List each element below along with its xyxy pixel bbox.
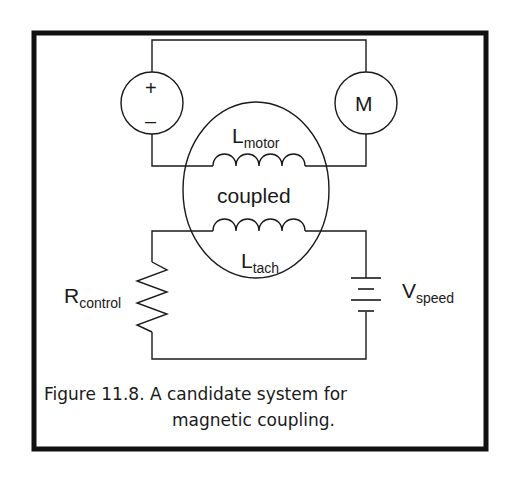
source-minus-sign: – — [145, 111, 156, 131]
inductor-tach-label: Ltach — [241, 250, 279, 275]
battery-sub: speed — [416, 290, 454, 306]
inductor-tach-sub: tach — [253, 260, 279, 276]
inductor-tach-main: L — [241, 249, 253, 272]
battery-icon — [351, 278, 381, 311]
coupling-label: coupled — [217, 185, 291, 206]
wire-inductor-to-resistor — [152, 231, 213, 262]
inductor-motor-icon — [213, 154, 305, 166]
caption-line-1: Figure 11.8. A candidate system for — [44, 386, 347, 403]
resistor-icon — [137, 262, 167, 332]
battery-label: Vspeed — [402, 280, 454, 305]
resistor-label: Rcontrol — [64, 285, 121, 310]
inductor-tach-icon — [213, 219, 305, 231]
wire-inductor-to-battery — [305, 231, 366, 278]
resistor-sub: control — [79, 295, 121, 311]
inductor-motor-main: L — [232, 124, 244, 147]
source-plus-sign: + — [145, 78, 157, 98]
inductor-motor-label: Lmotor — [232, 125, 279, 150]
wire-top — [152, 40, 366, 72]
motor-label: M — [355, 93, 373, 114]
wire-motor-to-inductor — [305, 134, 366, 166]
battery-main: V — [402, 279, 416, 302]
resistor-main: R — [64, 284, 79, 307]
circuit-diagram — [0, 0, 513, 479]
inductor-motor-sub: motor — [244, 135, 280, 151]
caption-line-2: magnetic coupling. — [172, 412, 335, 429]
wire-source-to-inductor — [152, 134, 213, 166]
wire-bottom — [152, 312, 366, 359]
